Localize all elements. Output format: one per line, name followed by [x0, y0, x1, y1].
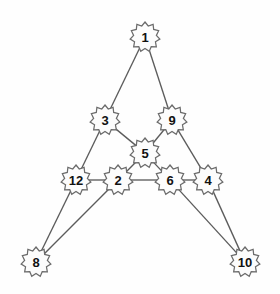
graph-edge — [43, 187, 111, 255]
graph-node-label: 9 — [168, 113, 175, 128]
graph-node-9[interactable]: 9 — [157, 105, 187, 134]
graph-node-label: 8 — [32, 255, 39, 270]
graph-edge — [148, 47, 169, 111]
graph-edge — [177, 187, 239, 254]
graph-node-label: 4 — [204, 173, 212, 188]
graph-svg-root: 139512264810 — [0, 0, 280, 294]
graph-edge — [80, 129, 100, 171]
graph-node-12[interactable]: 12 — [61, 165, 91, 194]
graph-node-5[interactable]: 5 — [130, 138, 160, 167]
graph-node-1[interactable]: 1 — [130, 22, 160, 51]
graph-node-3[interactable]: 3 — [90, 105, 120, 134]
graph-node-label: 2 — [114, 173, 121, 188]
graph-node-4[interactable]: 4 — [193, 165, 223, 194]
graph-diagram-canvas: 139512264810 — [0, 0, 280, 294]
graph-edge — [212, 189, 241, 253]
graph-node-label: 10 — [238, 255, 252, 270]
graph-node-label: 6 — [166, 173, 173, 188]
graph-edge — [40, 189, 71, 253]
graph-node-label: 5 — [141, 146, 148, 161]
graph-node-label: 12 — [69, 173, 83, 188]
graph-node-label: 3 — [101, 113, 108, 128]
graph-node-label: 1 — [141, 30, 148, 45]
graph-edge — [109, 46, 140, 111]
graph-edge — [177, 129, 203, 172]
